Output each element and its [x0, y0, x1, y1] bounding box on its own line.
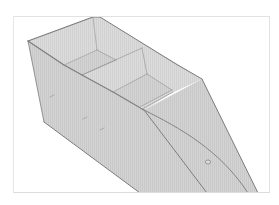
boat-hull-drawing	[0, 0, 279, 205]
drain-plug	[205, 160, 210, 164]
